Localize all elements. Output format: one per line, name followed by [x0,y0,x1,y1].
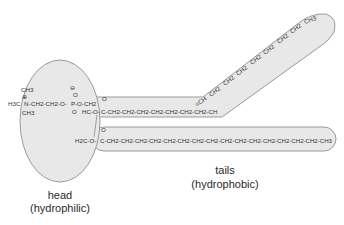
head-sublabel: (hydrophilic) [30,202,90,214]
phosphate-link: -O-CH2 [75,100,97,107]
upper-tail-chain: C-CH2-CH2-CH2-CH2-CH2-CH2-CH2-CH [101,108,218,115]
choline-chain: -CH2-CH2-O- [29,100,67,107]
choline-top-methyl: CH3 [21,86,34,93]
choline-bottom-methyl: CH3 [22,109,35,116]
head-region [20,60,100,182]
tails-label: tails [215,164,235,176]
lower-carbonyl-oxygen: O [101,126,106,133]
phosphate-charge: ⊖ [70,84,75,91]
glycerol-middle: HC-O- [82,108,100,115]
choline-charge: ⊕ [22,93,27,100]
lower-tail-chain: C-CH2-CH2-CH2-CH2-CH2-CH2-CH2-CH2-CH2-CH… [100,137,333,144]
choline-left-methyl: H3C [8,100,21,107]
phosphate-bottom-oxygen: O [72,108,77,115]
phospholipid-diagram: CH3 ⊕ H3C N CH3 -CH2-CH2-O- ⊖ O P O -O-C… [0,0,344,225]
upper-carbonyl-oxygen: O [102,95,107,102]
head-label: head [48,189,72,201]
glycerol-bottom: H2C-O- [75,137,96,144]
phosphate-top-oxygen: O [73,91,78,98]
tails-sublabel: (hydrophobic) [191,178,258,190]
choline-nitrogen: N [24,100,28,107]
